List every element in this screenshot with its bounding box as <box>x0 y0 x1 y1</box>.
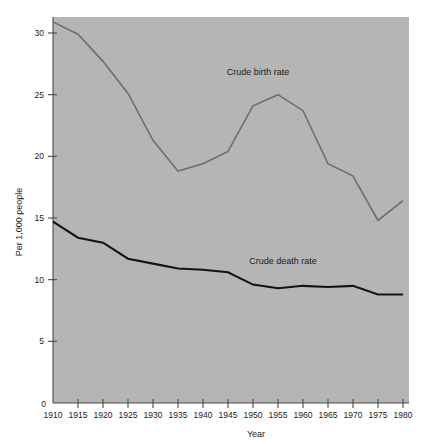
y-axis-origin-label: 0 <box>41 399 46 409</box>
x-axis-tick-label: 1945 <box>219 410 238 420</box>
y-axis-title: Per 1,000 people <box>14 188 24 257</box>
x-axis-tick-label: 1935 <box>169 410 188 420</box>
x-axis-tick-label: 1915 <box>69 410 88 420</box>
x-axis-tick-label: 1930 <box>144 410 163 420</box>
x-axis-tick-label: 1965 <box>319 410 338 420</box>
y-axis-tick-label: 15 <box>35 213 45 223</box>
x-axis-tick-label: 1925 <box>119 410 138 420</box>
x-axis-tick-label: 1970 <box>344 410 363 420</box>
crude-birth-rate-annotation: Crude birth rate <box>227 67 290 77</box>
x-axis-tick-label: 1955 <box>269 410 288 420</box>
crude-death-rate-annotation: Crude death rate <box>249 256 317 266</box>
line-chart-svg: 51015202530 1910191519201925193019351940… <box>0 0 421 444</box>
x-axis-tick-label: 1920 <box>94 410 113 420</box>
y-axis-tick-label: 10 <box>35 275 45 285</box>
x-axis-tick-label: 1960 <box>294 410 313 420</box>
chart-container: 51015202530 1910191519201925193019351940… <box>0 0 421 444</box>
x-axis-tick-label: 1980 <box>394 410 413 420</box>
x-axis-tick-label: 1950 <box>244 410 263 420</box>
y-axis-tick-label: 20 <box>35 151 45 161</box>
y-axis-tick-label: 5 <box>39 336 44 346</box>
x-axis-title: Year <box>247 429 265 439</box>
y-axis-tick-label: 30 <box>35 28 45 38</box>
x-axis-tick-label: 1975 <box>369 410 388 420</box>
x-axis-tick-label: 1940 <box>194 410 213 420</box>
y-axis-tick-label: 25 <box>35 90 45 100</box>
x-axis-tick-label: 1910 <box>44 410 63 420</box>
